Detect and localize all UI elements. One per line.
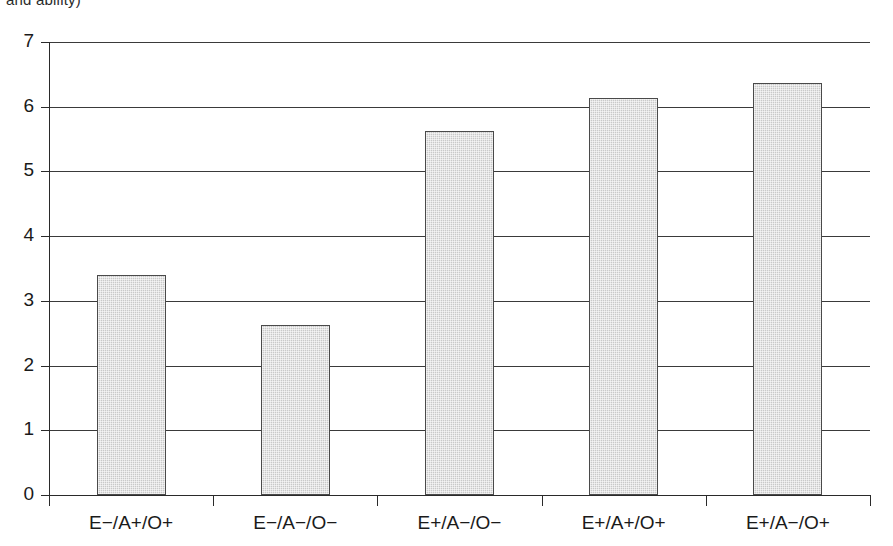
x-axis-line (49, 495, 870, 496)
bar-0 (97, 275, 166, 495)
x-axis-label-2: E+/A−/O− (377, 512, 541, 534)
y-axis-label-6: 6 (6, 95, 34, 117)
bar-2 (425, 131, 494, 495)
y-tick-7 (41, 42, 50, 43)
x-axis-label-1: E−/A−/O− (213, 512, 377, 534)
y-tick-5 (41, 171, 50, 172)
bar-chart: 7 6 5 4 3 2 1 0 E−/A+/O+ E−/A−/O− E+/A−/… (0, 0, 893, 546)
y-tick-4 (41, 236, 50, 237)
y-axis-label-4: 4 (6, 224, 34, 246)
y-tick-1 (41, 430, 50, 431)
y-tick-6 (41, 107, 50, 108)
y-axis-label-7: 7 (6, 30, 34, 52)
x-tick-5 (870, 495, 871, 506)
y-tick-2 (41, 366, 50, 367)
y-axis-line (49, 42, 50, 495)
plot-area (49, 42, 870, 495)
gridline-6 (49, 107, 870, 108)
x-axis-label-4: E+/A−/O+ (706, 512, 870, 534)
y-axis-label-2: 2 (6, 354, 34, 376)
x-tick-2 (377, 495, 378, 506)
bar-4 (753, 83, 822, 495)
gridline-7 (49, 42, 870, 43)
bar-3 (589, 98, 658, 495)
x-tick-1 (213, 495, 214, 506)
y-axis-label-0: 0 (6, 483, 34, 505)
bar-1 (261, 325, 330, 495)
x-tick-3 (542, 495, 543, 506)
y-tick-3 (41, 301, 50, 302)
y-axis-label-1: 1 (6, 418, 34, 440)
y-axis-label-5: 5 (6, 159, 34, 181)
x-axis-label-0: E−/A+/O+ (49, 512, 213, 534)
x-tick-0 (49, 495, 50, 506)
x-tick-4 (706, 495, 707, 506)
x-axis-label-3: E+/A+/O+ (542, 512, 706, 534)
y-axis-label-3: 3 (6, 289, 34, 311)
